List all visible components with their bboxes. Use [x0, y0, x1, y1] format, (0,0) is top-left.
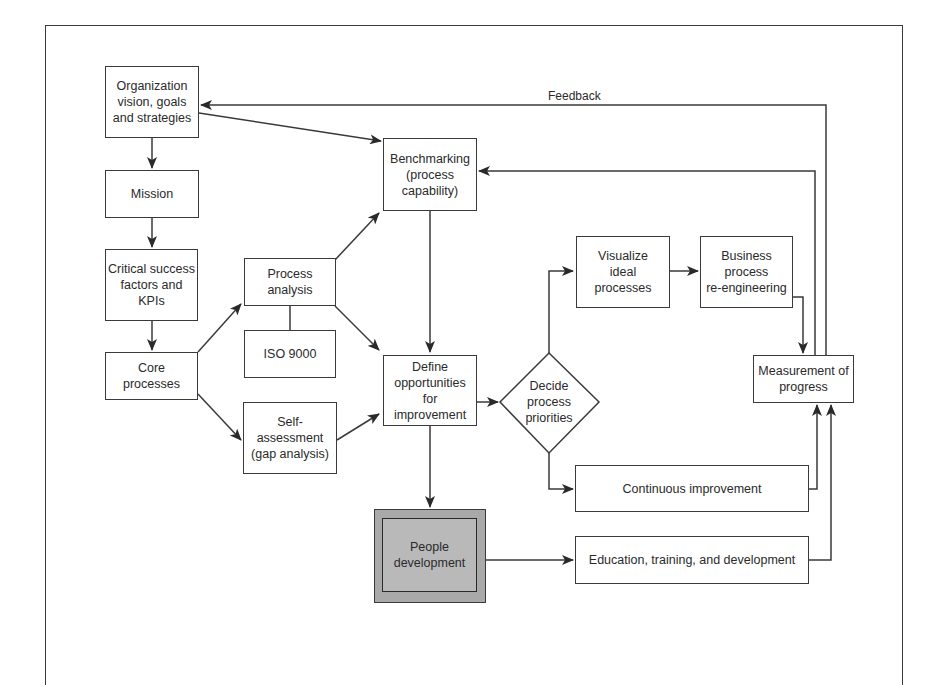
benchmarking-node: Benchmarking (process capability) [383, 138, 477, 211]
mission-node: Mission [105, 170, 199, 218]
continuous-improvement-node: Continuous improvement [575, 465, 809, 512]
visualize-ideal-node: Visualize ideal processes [576, 236, 670, 308]
org-vision-node: Organization vision, goals and strategie… [105, 66, 199, 138]
bpr-node: Business process re-engineering [700, 236, 793, 308]
csf-kpi-node: Critical success factors and KPIs [105, 249, 198, 321]
self-assessment-node: Self- assessment (gap analysis) [243, 402, 337, 474]
decide-priorities-node: Decide process priorities [505, 370, 593, 434]
core-processes-node: Core processes [105, 352, 198, 400]
measurement-node: Measurement of progress [753, 355, 854, 403]
feedback-label: Feedback [548, 89, 601, 103]
process-analysis-node: Process analysis [244, 258, 336, 306]
people-development-node: People development [382, 518, 477, 592]
education-node: Education, training, and development [575, 536, 809, 584]
iso9000-node: ISO 9000 [244, 330, 336, 378]
define-opportunities-node: Define opportunities for improvement [383, 355, 477, 426]
